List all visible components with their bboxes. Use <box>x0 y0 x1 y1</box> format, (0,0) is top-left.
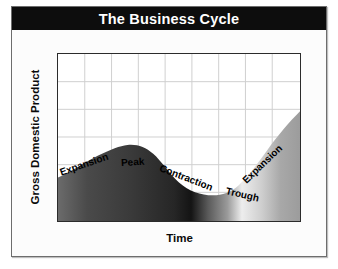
curve-label-peak: Peak <box>121 156 145 168</box>
page-title: The Business Cycle <box>99 11 240 27</box>
plot-area: Expansion Peak Contraction Trough Expans… <box>57 53 301 222</box>
chart-svg <box>58 54 300 221</box>
x-axis-label: Time <box>58 232 301 244</box>
y-axis-label-text: Gross Domestic Product <box>29 70 41 205</box>
business-cycle-figure: The Business Cycle Gross Domestic Produc… <box>0 0 338 269</box>
y-axis-label: Gross Domestic Product <box>26 52 44 222</box>
title-bar: The Business Cycle <box>12 7 326 30</box>
